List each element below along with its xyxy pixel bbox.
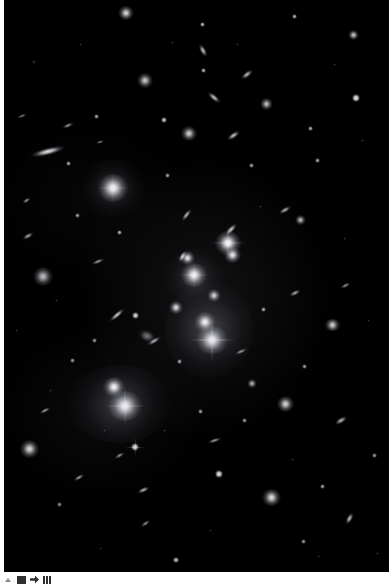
diffraction-spike-vertical xyxy=(227,226,228,260)
diffraction-spike-vertical xyxy=(193,261,194,289)
expand-caret-icon[interactable] xyxy=(5,578,11,582)
page-root xyxy=(0,0,392,587)
grid-icon[interactable] xyxy=(43,576,52,584)
diffraction-spike-vertical xyxy=(211,317,212,363)
bottom-toolbar xyxy=(0,572,392,587)
diffraction-spike-vertical xyxy=(135,437,136,457)
deep-field-astronomy-image[interactable] xyxy=(4,0,389,572)
sky-background xyxy=(4,0,389,572)
diffraction-spike-vertical xyxy=(112,173,113,203)
document-icon[interactable] xyxy=(15,576,26,584)
share-icon[interactable] xyxy=(30,576,39,584)
diffraction-spike-vertical xyxy=(124,386,125,426)
